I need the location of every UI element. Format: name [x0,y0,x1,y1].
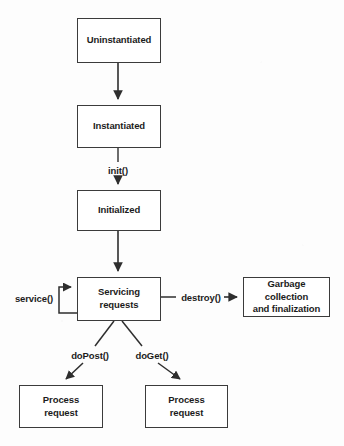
node-servicing-requests-line2: requests [95,299,143,312]
diagram-connectors [0,0,344,446]
node-garbage-collection-label: Garbage collection and finalization [244,278,329,316]
servlet-lifecycle-diagram: Uninstantiated Instantiated Initialized … [0,0,344,446]
node-process-request-left: Process request [19,385,103,428]
edge-servicing-self-loop [59,287,77,313]
node-process-request-right: Process request [145,385,228,428]
node-process-request-left-line1: Process [40,394,82,407]
node-uninstantiated: Uninstantiated [77,18,161,63]
node-process-request-right-line2: request [165,407,207,420]
node-garbage-collection: Garbage collection and finalization [243,277,330,317]
node-initialized: Initialized [77,190,161,231]
node-servicing-requests-line1: Servicing [95,286,143,299]
node-servicing-requests: Servicing requests [77,277,161,321]
edge-label-destroy: destroy() [181,292,221,303]
node-garbage-collection-line1: Garbage collection [247,278,326,304]
node-initialized-label: Initialized [95,204,143,217]
node-instantiated: Instantiated [77,105,161,148]
edge-label-doget: doGet() [135,350,168,361]
node-servicing-requests-label: Servicing requests [92,286,146,312]
edge-label-init: init() [108,165,128,176]
edge-label-dopost: doPost() [71,350,109,361]
node-instantiated-label: Instantiated [90,120,148,133]
node-process-request-right-label: Process request [162,394,210,420]
node-garbage-collection-line2: and finalization [247,303,326,316]
node-process-request-left-label: Process request [37,394,85,420]
node-process-request-left-line2: request [40,407,82,420]
edge-label-service: service() [15,293,53,304]
node-process-request-right-line1: Process [165,394,207,407]
node-uninstantiated-label: Uninstantiated [84,34,155,47]
